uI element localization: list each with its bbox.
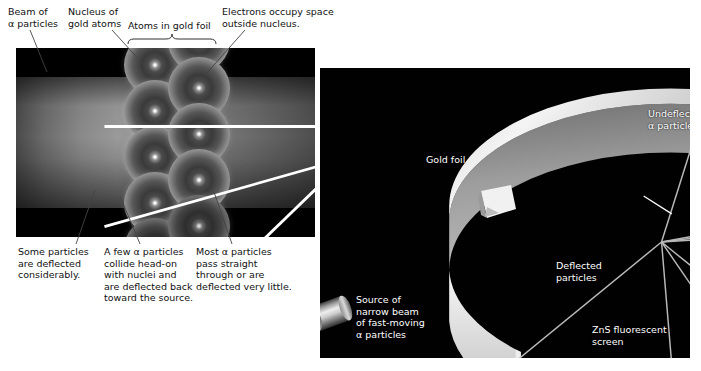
rutherford-gold-foil-figure: Undeflected α particles Gold foil Deflec… xyxy=(0,0,701,371)
left-panel-leader-lines xyxy=(0,0,701,371)
leader-head-on xyxy=(120,196,140,244)
leader-most-straight xyxy=(214,192,232,244)
leader-some-deflected xyxy=(76,190,95,244)
leader-beam xyxy=(30,30,47,72)
leader-electrons xyxy=(206,30,245,74)
leader-nucleus xyxy=(112,30,143,64)
atoms-in-gold-foil-bracket xyxy=(128,34,216,44)
